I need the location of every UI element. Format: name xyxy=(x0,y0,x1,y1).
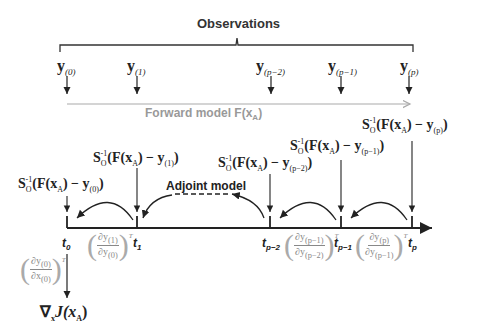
observation-yp-2: y(p−2) xyxy=(256,57,285,77)
time-label-tp: tp xyxy=(408,236,417,252)
observations-title: Observations xyxy=(197,16,280,31)
forcing-term-p: SO-1(F(xA) − y(p)) xyxy=(362,117,448,135)
adjoint-model-label: Adjoint model xyxy=(166,179,246,193)
time-label-t1: t1 xyxy=(133,236,141,252)
forcing-term-1: SO-1(F(xA) − y(1)) xyxy=(93,150,179,168)
observation-yp: y(p) xyxy=(400,57,419,77)
forcing-term-p-2: SO-1(F(xA) − y(p−2)) xyxy=(218,155,312,173)
time-label-tp-2: tp−2 xyxy=(262,236,280,252)
observation-y1: y(1) xyxy=(127,57,146,77)
jacobian-y0-x0: (∂y(0)∂x(0))T xyxy=(20,254,66,284)
forcing-term-0: SO-1(F(xA) − y(0)) xyxy=(18,176,104,194)
cost-gradient: ∇xJ(xA) xyxy=(40,302,87,323)
jacobian-y1-y0: (∂y(1)∂y(0))T xyxy=(87,230,133,260)
observation-y0: y(0) xyxy=(57,57,76,77)
jacobian-yp-1-yp-2: (∂y(p−1)∂y(p−2))T xyxy=(284,230,338,260)
observation-yp-1: y(p−1) xyxy=(328,57,357,77)
jacobian-yp-yp-1: (∂y(p)∂y(p−1))T xyxy=(355,230,407,260)
forward-model-label: Forward model F(xA) xyxy=(145,106,262,122)
forcing-term-p-1: SO-1(F(xA) − y(p−1)) xyxy=(290,138,384,156)
observations-brace xyxy=(60,38,413,52)
time-label-t0: t0 xyxy=(62,236,70,252)
